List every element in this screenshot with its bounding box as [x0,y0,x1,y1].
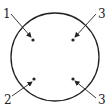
dot [71,77,74,80]
label-2: 2 [4,93,12,107]
label-3-top: 3 [98,7,106,21]
point-3-bottom: 3 [71,77,105,107]
dot [32,77,35,80]
point-2: 2 [4,77,36,107]
point-1: 1 [3,7,35,42]
label-3-bottom: 3 [98,93,106,107]
dot [71,38,74,41]
diagram: 1 3 2 3 [0,0,109,110]
label-1: 1 [3,7,11,21]
point-3-top: 3 [71,7,105,42]
dot [31,38,34,41]
